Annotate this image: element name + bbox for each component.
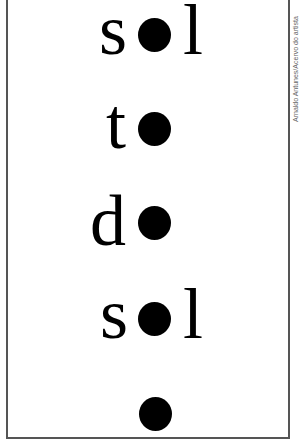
- image-credit: Arnaldo Antunes/Acervo do artista: [292, 2, 304, 122]
- filled-circle-icon: [138, 302, 171, 336]
- letter-s: s: [99, 0, 127, 66]
- filled-circle-icon: [139, 397, 172, 431]
- filled-circle-icon: [138, 112, 171, 146]
- letter-l: l: [183, 278, 203, 350]
- letter-d: d: [90, 185, 126, 257]
- letter-l: l: [183, 0, 203, 66]
- filled-circle-icon: [138, 206, 171, 240]
- letter-s: s: [100, 278, 128, 350]
- filled-circle-icon: [138, 18, 171, 52]
- letter-t: t: [106, 88, 126, 160]
